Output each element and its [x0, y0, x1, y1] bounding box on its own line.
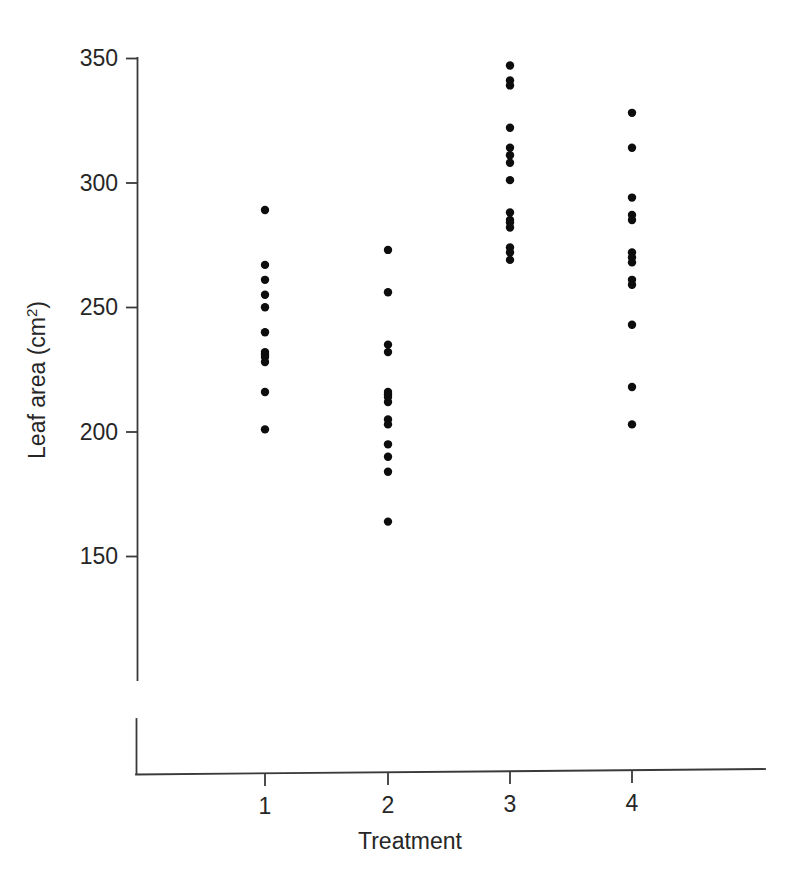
data-point — [384, 348, 392, 356]
data-point — [384, 398, 392, 406]
x-tick-label-4: 4 — [626, 790, 639, 816]
y-tick-label-200: 200 — [80, 419, 118, 445]
data-point — [506, 144, 514, 152]
data-point — [261, 291, 269, 299]
data-point — [384, 340, 392, 348]
series-treatment-2 — [384, 246, 392, 526]
y-axis-title-base: Leaf area (cm — [24, 317, 50, 459]
data-point — [384, 420, 392, 428]
y-tick-label-350: 350 — [80, 45, 118, 71]
data-point — [384, 288, 392, 296]
x-tick-label-2: 2 — [382, 792, 395, 818]
data-point — [384, 440, 392, 448]
data-point — [384, 246, 392, 254]
data-point — [506, 124, 514, 132]
data-point — [506, 151, 514, 159]
data-point — [628, 144, 636, 152]
y-tick-marks — [126, 59, 138, 557]
y-tick-label-300: 300 — [80, 170, 118, 196]
x-axis-line — [136, 769, 765, 775]
y-axis-title-close: ) — [24, 301, 50, 309]
data-point — [628, 193, 636, 201]
data-point — [628, 321, 636, 329]
data-point — [628, 383, 636, 391]
data-point — [261, 303, 269, 311]
data-point — [261, 206, 269, 214]
x-tick-label-1: 1 — [259, 793, 272, 819]
series-treatment-3 — [506, 61, 514, 264]
y-axis-title-superscript: 2 — [23, 309, 40, 317]
y-axis-title-group: Leaf area (cm2) — [23, 301, 50, 459]
data-point — [506, 61, 514, 69]
x-tick-labels: 1 2 3 4 — [259, 790, 639, 819]
data-point — [506, 256, 514, 264]
data-point — [506, 81, 514, 89]
series-treatment-1 — [261, 206, 269, 434]
y-tick-label-150: 150 — [80, 543, 118, 569]
data-point — [384, 517, 392, 525]
y-tick-labels: 350 300 250 200 150 — [80, 45, 118, 569]
y-axis-title: Leaf area (cm2) — [23, 301, 50, 459]
data-point — [628, 216, 636, 224]
data-point — [628, 258, 636, 266]
data-point — [506, 158, 514, 166]
data-point — [506, 208, 514, 216]
data-point — [506, 176, 514, 184]
data-point — [506, 223, 514, 231]
data-point — [384, 468, 392, 476]
data-point — [261, 261, 269, 269]
y-tick-label-250: 250 — [80, 294, 118, 320]
x-axis-title: Treatment — [358, 828, 463, 854]
data-points-layer — [261, 61, 636, 526]
data-point — [261, 425, 269, 433]
data-point — [261, 388, 269, 396]
plot-canvas: 350 300 250 200 150 1 2 3 4 Treatment Le… — [0, 0, 802, 873]
data-point — [628, 109, 636, 117]
figure-dotplot-leaf-area: 350 300 250 200 150 1 2 3 4 Treatment Le… — [0, 0, 802, 873]
data-point — [506, 248, 514, 256]
data-point — [261, 276, 269, 284]
data-point — [384, 453, 392, 461]
series-treatment-4 — [628, 109, 636, 429]
data-point — [628, 420, 636, 428]
data-point — [628, 281, 636, 289]
data-point — [261, 358, 269, 366]
data-point — [261, 328, 269, 336]
x-tick-label-3: 3 — [504, 791, 517, 817]
